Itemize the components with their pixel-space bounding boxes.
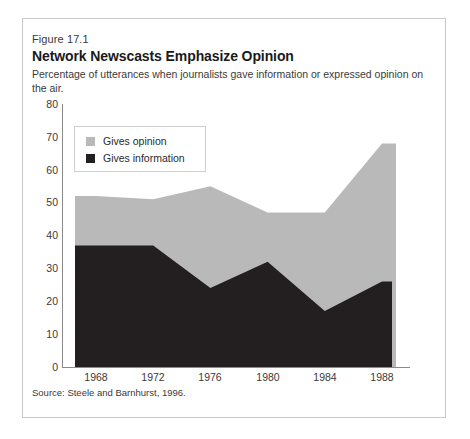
chart-legend: Gives opinion Gives information (74, 126, 206, 172)
x-tick-1976: 1976 (185, 371, 235, 383)
y-tick-60: 60 (34, 164, 58, 176)
x-tick-1968: 1968 (71, 371, 121, 383)
y-tick-30: 30 (34, 262, 58, 274)
legend-item-opinion: Gives opinion (86, 135, 167, 147)
y-tick-40: 40 (34, 229, 58, 241)
legend-label-information: Gives information (103, 152, 185, 164)
figure-source: Source: Steele and Barnhurst, 1996. (32, 387, 186, 398)
y-tick-70: 70 (34, 131, 58, 143)
y-tick-80: 80 (34, 98, 58, 110)
y-tick-0: 0 (34, 361, 58, 373)
x-tick-1988: 1988 (357, 371, 407, 383)
y-tick-10: 10 (34, 328, 58, 340)
x-tick-1980: 1980 (243, 371, 293, 383)
opinion-swatch-icon (86, 137, 95, 146)
information-swatch-icon (86, 154, 95, 163)
x-tick-1984: 1984 (300, 371, 350, 383)
legend-item-information: Gives information (86, 152, 185, 164)
y-tick-20: 20 (34, 295, 58, 307)
chart-plot-area: 80 70 60 50 40 30 20 10 0 1968 1972 1976… (0, 0, 470, 439)
x-tick-1972: 1972 (128, 371, 178, 383)
legend-label-opinion: Gives opinion (103, 135, 167, 147)
y-tick-50: 50 (34, 196, 58, 208)
